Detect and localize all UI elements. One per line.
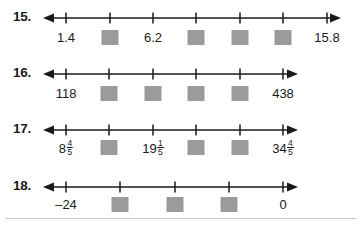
mixed-whole-part: 19	[142, 141, 156, 156]
fraction-numerator: 4	[287, 139, 294, 148]
mixed-fraction-part: 45	[67, 139, 74, 158]
tick-value-label: 118	[56, 87, 77, 100]
missing-value-box[interactable]	[101, 140, 118, 155]
problem-row: 18.–240	[0, 177, 363, 229]
tick-value-label: 1.4	[57, 31, 75, 44]
number-line	[0, 64, 363, 84]
missing-value-box[interactable]	[101, 86, 118, 101]
missing-value-box[interactable]	[167, 197, 184, 212]
missing-value-box[interactable]	[145, 86, 162, 101]
mixed-whole-part: 8	[59, 141, 66, 156]
mixed-fraction-part: 15	[157, 139, 164, 158]
missing-value-box[interactable]	[102, 30, 119, 45]
arrowhead-right-icon	[287, 182, 298, 191]
tick-value-mixed-number: 3445	[272, 139, 294, 158]
arrowhead-right-icon	[287, 69, 298, 78]
arrowhead-right-icon	[330, 13, 341, 22]
mixed-whole-part: 34	[272, 141, 286, 156]
fraction-denominator: 5	[157, 147, 164, 157]
arrowhead-left-icon	[43, 182, 54, 191]
missing-value-box[interactable]	[188, 86, 205, 101]
tick-value-label: 15.8	[314, 31, 339, 44]
missing-value-box[interactable]	[232, 86, 249, 101]
arrowhead-left-icon	[43, 13, 54, 22]
missing-value-box[interactable]	[275, 30, 292, 45]
missing-value-box[interactable]	[188, 140, 205, 155]
number-line	[0, 8, 363, 28]
missing-value-box[interactable]	[221, 197, 238, 212]
fraction-denominator: 5	[287, 147, 294, 157]
mixed-fraction-part: 45	[287, 139, 294, 158]
tick-value-mixed-number: 1915	[142, 139, 164, 158]
tick-value-label: –24	[55, 198, 77, 211]
missing-value-box[interactable]	[188, 30, 205, 45]
tick-value-mixed-number: 845	[59, 139, 73, 158]
number-line	[0, 120, 363, 140]
missing-value-box[interactable]	[112, 197, 129, 212]
missing-value-box[interactable]	[232, 30, 249, 45]
fraction-numerator: 4	[67, 139, 74, 148]
problem-row: 15.1.46.215.8	[0, 8, 363, 60]
tick-value-label: 438	[272, 87, 294, 100]
bottom-divider	[6, 218, 357, 219]
tick-value-label: 0	[279, 198, 286, 211]
worksheet-page: 15.1.46.215.816.11843817.8451915344518.–…	[0, 0, 363, 233]
tick-value-label: 6.2	[144, 31, 162, 44]
fraction-numerator: 1	[157, 139, 164, 148]
missing-value-box[interactable]	[232, 140, 249, 155]
number-line	[0, 177, 363, 197]
problem-row: 16.118438	[0, 64, 363, 116]
problem-row: 17.84519153445	[0, 120, 363, 172]
arrowhead-left-icon	[43, 69, 54, 78]
arrowhead-right-icon	[287, 125, 298, 134]
arrowhead-left-icon	[43, 125, 54, 134]
fraction-denominator: 5	[67, 147, 74, 157]
